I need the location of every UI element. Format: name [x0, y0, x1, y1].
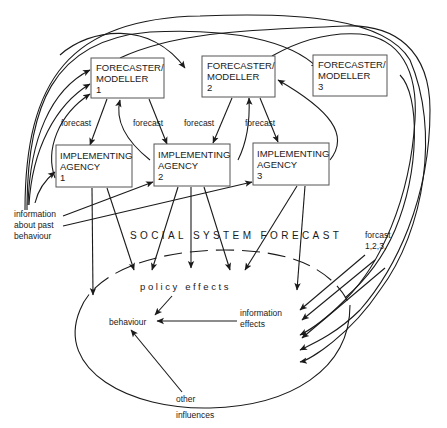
forecaster-modeller-2: FORECASTER/ MODELLER 2 [202, 56, 275, 97]
svg-text:other: other [176, 394, 196, 404]
forecast-label-3: forecast [184, 118, 215, 128]
policy-effects-label: policy effects [140, 281, 231, 292]
svg-text:2: 2 [158, 171, 163, 182]
arc-info-to-ia1 [35, 172, 55, 203]
arc-fm3-down [345, 75, 414, 298]
svg-text:FORECASTER/: FORECASTER/ [96, 62, 164, 73]
forecaster-modeller-3: FORECASTER/ MODELLER 3 [313, 55, 387, 96]
information-effects-label: information effects [240, 308, 282, 329]
arrow-ia1-down-b [107, 188, 134, 270]
social-system-ellipse-top [80, 250, 350, 310]
svg-text:AGENCY: AGENCY [158, 160, 199, 171]
forecast-label-4: forecast [245, 118, 276, 128]
svg-text:AGENCY: AGENCY [60, 161, 101, 172]
arrow-fm1-to-ia1 [90, 99, 107, 145]
arrow-forcast-1 [300, 255, 365, 310]
svg-text:1,2,3,: 1,2,3, [365, 241, 386, 251]
arrow-ia1-down-a [92, 188, 93, 295]
svg-text:2: 2 [207, 82, 212, 93]
info-about-past-behaviour: information about past behaviour [14, 209, 56, 241]
forecast-label-2: forecast [133, 118, 164, 128]
arrow-ia2-to-fm2 [238, 98, 249, 160]
svg-text:1: 1 [96, 84, 101, 95]
svg-text:MODELLER: MODELLER [318, 70, 370, 81]
arrow-fm2-to-ia2 [213, 98, 232, 143]
svg-text:MODELLER: MODELLER [96, 73, 148, 84]
svg-text:IMPLEMENTING: IMPLEMENTING [158, 149, 230, 160]
forecaster-modeller-1: FORECASTER/ MODELLER 1 [91, 58, 164, 98]
implementing-agency-3: IMPLEMENTING AGENCY 3 [253, 143, 329, 185]
arrow-ia3-down-a [245, 186, 297, 270]
svg-text:IMPLEMENTING: IMPLEMENTING [257, 148, 329, 159]
svg-text:IMPLEMENTING: IMPLEMENTING [60, 150, 132, 161]
svg-text:AGENCY: AGENCY [257, 159, 298, 170]
forcast-123-label: forcast 1,2,3, [365, 230, 391, 251]
social-system-forecast-diagram: FORECASTER/ MODELLER 1 FORECASTER/ MODEL… [0, 0, 447, 428]
svg-text:MODELLER: MODELLER [207, 71, 259, 82]
arrow-other-to-behaviour [131, 330, 182, 392]
arrow-ia2-down-c [204, 187, 230, 270]
arrow-forcast-3 [302, 268, 385, 338]
svg-text:effects: effects [240, 319, 265, 329]
svg-text:information: information [14, 209, 56, 219]
svg-text:influences: influences [176, 410, 214, 420]
implementing-agency-2: IMPLEMENTING AGENCY 2 [154, 144, 230, 186]
implementing-agency-1: IMPLEMENTING AGENCY 1 [56, 145, 132, 187]
svg-text:1: 1 [60, 172, 65, 183]
svg-text:about past: about past [14, 220, 54, 230]
svg-text:forcast: forcast [365, 230, 391, 240]
svg-text:information: information [240, 308, 282, 318]
svg-text:3: 3 [257, 170, 262, 181]
svg-text:FORECASTER/: FORECASTER/ [207, 60, 275, 71]
svg-text:FORECASTER/: FORECASTER/ [318, 59, 386, 70]
behaviour-label: behaviour [109, 317, 147, 327]
arrow-policy-to-behaviour [155, 296, 172, 315]
svg-text:behaviour: behaviour [14, 231, 52, 241]
svg-text:3: 3 [318, 81, 323, 92]
forecast-label-1: forecast [61, 118, 92, 128]
arrow-info-to-ia3 [63, 182, 252, 226]
